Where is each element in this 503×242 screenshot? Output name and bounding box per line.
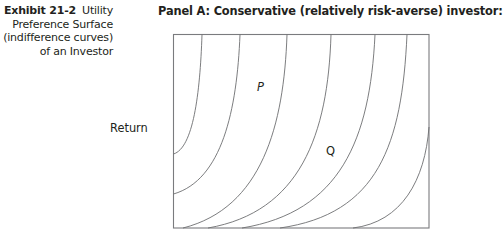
curves — [174, 35, 430, 229]
plot-frame — [174, 35, 430, 229]
point-p-label: P — [257, 80, 264, 94]
indifference-curve-5 — [242, 35, 375, 229]
indifference-curve-6 — [280, 35, 407, 229]
indifference-curve-2 — [174, 35, 241, 195]
indifference-curve-7 — [353, 127, 429, 228]
point-q-label: Q — [326, 144, 335, 158]
indifference-curve-3 — [183, 35, 287, 229]
indifference-curve-1 — [174, 35, 203, 155]
